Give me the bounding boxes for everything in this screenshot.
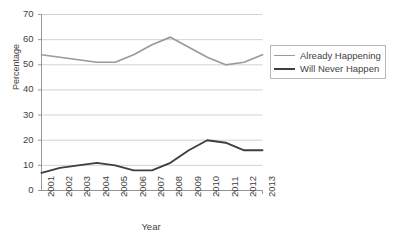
y-tick-label: 50: [14, 59, 34, 69]
legend-swatch-line-icon: [274, 55, 295, 56]
x-tick-label: 2009: [193, 175, 203, 196]
x-tick-label: 2012: [248, 175, 258, 196]
series-line-will-never-happen: [42, 140, 263, 173]
legend-item: Already Happening: [274, 49, 381, 62]
x-tick-label: 2006: [138, 175, 148, 196]
x-tick-label: 2008: [174, 175, 184, 196]
chart-legend: Already HappeningWill Never Happen: [270, 45, 386, 79]
x-tick-label: 2001: [46, 175, 56, 196]
x-tick-label: 2004: [101, 175, 111, 196]
line-chart: Percentage Year 706050403020100 20012002…: [0, 0, 403, 238]
y-tick-label: 40: [14, 84, 34, 94]
y-tick-label: 0: [14, 185, 34, 195]
x-tick-label: 2011: [230, 176, 240, 196]
legend-item: Will Never Happen: [274, 62, 381, 75]
series-line-already-happening: [42, 37, 263, 65]
x-tick-label: 2005: [119, 175, 129, 196]
axis-lines: [42, 15, 263, 191]
x-tick-label: 2013: [267, 175, 277, 196]
legend-swatch-line-icon: [274, 68, 295, 70]
x-tick-label: 2002: [64, 175, 74, 196]
x-tick-label: 2007: [156, 175, 166, 196]
gridlines: [42, 15, 263, 191]
y-tick-label: 70: [14, 9, 34, 19]
y-tick-label: 10: [14, 160, 34, 170]
y-tick-label: 20: [14, 135, 34, 145]
y-tick-label: 60: [14, 34, 34, 44]
y-tick-label: 30: [14, 110, 34, 120]
x-tick-label: 2003: [82, 175, 92, 196]
x-axis-title: Year: [40, 221, 262, 232]
x-tick-label: 2010: [211, 175, 221, 196]
plot-area: [0, 0, 403, 238]
y-tick-marks: [38, 15, 42, 191]
legend-label: Will Never Happen: [300, 63, 379, 74]
legend-label: Already Happening: [300, 50, 381, 61]
